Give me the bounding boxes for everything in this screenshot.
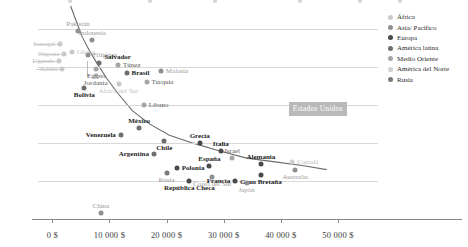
legend-marker-icon — [388, 25, 393, 30]
data-point-label: Venezuela — [86, 132, 116, 139]
data-point-label: Australia — [282, 173, 308, 180]
data-point-label: Japón — [238, 186, 254, 193]
gridline — [38, 143, 378, 144]
legend-marker-icon — [388, 77, 393, 82]
x-axis-tick-label: 10 000 $ — [94, 230, 125, 240]
data-point-label: China — [92, 203, 109, 210]
data-point-label: Brasil — [132, 69, 150, 76]
data-point-label: Indonesia — [79, 30, 106, 37]
x-axis-tick-label: 20 000 $ — [151, 230, 182, 240]
data-point[interactable] — [58, 42, 63, 47]
scatter-chart: 0 %20 %40 %60 %80 %100 %0 $10 000 $20 00… — [0, 0, 468, 247]
legend-item[interactable]: Rusia — [388, 74, 449, 84]
legend-item-label: Asia/ Pacífico — [397, 24, 436, 32]
data-point[interactable] — [141, 102, 146, 107]
x-axis-tick-label: 50 000 $ — [322, 230, 353, 240]
data-point[interactable] — [158, 68, 163, 73]
data-point-label: España — [198, 155, 220, 162]
data-point-label: República Checa — [164, 184, 215, 191]
x-axis-tick-label: 0 $ — [47, 230, 58, 240]
data-point[interactable] — [57, 59, 62, 64]
data-point-label: Chile — [156, 145, 172, 152]
data-point[interactable] — [258, 161, 263, 166]
data-point[interactable] — [60, 66, 65, 71]
cropped-marker — [213, 0, 217, 3]
gridline — [38, 67, 378, 68]
x-axis-tick — [109, 219, 110, 223]
x-axis-tick — [52, 219, 53, 223]
data-point-label: Argentina — [119, 151, 149, 158]
data-point[interactable] — [85, 53, 90, 58]
data-point-label: Turquía — [152, 79, 174, 86]
data-point-label: Grecia — [190, 132, 210, 139]
x-axis-tick-label: 30 000 $ — [208, 230, 239, 240]
cropped-marker — [148, 0, 152, 3]
data-point-label: Bolivia — [74, 91, 95, 98]
data-point[interactable] — [118, 133, 123, 138]
data-point-label: Canadá — [297, 158, 318, 165]
data-point[interactable] — [152, 152, 157, 157]
data-point[interactable] — [90, 38, 95, 43]
data-point[interactable] — [233, 178, 238, 183]
legend-marker-icon — [388, 35, 393, 40]
data-point-label: Kenia — [40, 65, 57, 72]
data-point[interactable] — [137, 125, 142, 130]
legend-item[interactable]: América del Norte — [388, 64, 449, 74]
legend-item[interactable]: Europa — [388, 33, 449, 43]
data-point[interactable] — [97, 61, 102, 66]
data-point[interactable] — [197, 140, 202, 145]
plot-area: 0 %20 %40 %60 %80 %100 %0 $10 000 $20 00… — [38, 6, 378, 219]
data-point-label: Polonia — [182, 164, 205, 171]
data-point-label: México — [128, 117, 150, 124]
legend-item[interactable]: Asia/ Pacífico — [388, 22, 449, 32]
legend-item[interactable]: América latina — [388, 43, 449, 53]
data-point-label: Pakistán — [66, 20, 90, 27]
data-point-label: Senegal — [33, 41, 55, 48]
x-axis-tick — [281, 219, 282, 223]
legend-marker-icon — [388, 15, 393, 20]
data-point[interactable] — [98, 211, 103, 216]
data-point[interactable] — [290, 159, 295, 164]
data-point[interactable] — [207, 163, 212, 168]
data-point-label: Malasia — [166, 67, 188, 74]
data-point[interactable] — [144, 80, 149, 85]
data-point[interactable] — [69, 49, 74, 54]
cropped-marker — [398, 0, 402, 3]
legend-item-label: Medio Oriente — [397, 55, 438, 63]
data-point[interactable] — [116, 62, 121, 67]
legend-item-label: África — [397, 13, 415, 21]
legend-marker-icon — [388, 46, 393, 51]
chart-legend: ÁfricaAsia/ PacíficoEuropaAmérica latina… — [388, 12, 449, 85]
data-point[interactable] — [124, 70, 129, 75]
data-point[interactable] — [230, 156, 235, 161]
legend-item[interactable]: África — [388, 12, 449, 22]
data-point[interactable] — [218, 148, 223, 153]
legend-item[interactable]: Medio Oriente — [388, 54, 449, 64]
legend-item-label: Europa — [397, 34, 417, 42]
legend-marker-icon — [388, 56, 393, 61]
cropped-marker — [68, 0, 72, 3]
data-point[interactable] — [174, 165, 179, 170]
legend-item-label: Rusia — [397, 76, 413, 84]
x-axis-tick — [224, 219, 225, 223]
x-axis-tick — [167, 219, 168, 223]
highlight-callout-estados-unidos: Estados Unidos — [289, 102, 347, 116]
data-point[interactable] — [62, 51, 67, 56]
data-point-label: África del Sur — [99, 87, 139, 94]
x-axis-line — [32, 219, 462, 220]
legend-marker-icon — [388, 67, 393, 72]
x-axis-tick-label: 40 000 $ — [265, 230, 296, 240]
data-point-label: Rusia — [159, 177, 175, 184]
x-axis-tick — [338, 219, 339, 223]
data-point-label: Israel — [225, 148, 241, 155]
legend-item-label: América latina — [397, 44, 438, 52]
data-point-label: Alemania — [246, 153, 275, 160]
data-point-label: Líbano — [149, 101, 169, 108]
cropped-marker — [358, 0, 362, 3]
cropped-marker — [298, 0, 302, 3]
legend-item-label: América del Norte — [397, 65, 449, 73]
